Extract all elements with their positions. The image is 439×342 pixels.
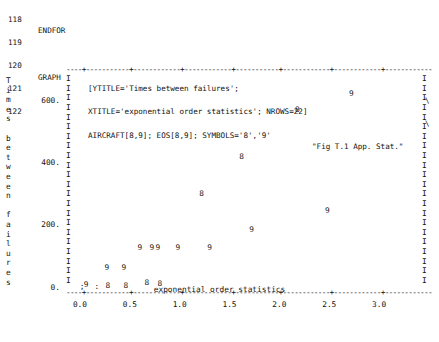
y-axis-title-char: i bbox=[6, 230, 11, 239]
x-axis-tick-label: 3.0 bbox=[364, 300, 394, 309]
y-axis-title-char: n bbox=[6, 191, 11, 200]
data-point-8: 8 bbox=[295, 105, 300, 114]
code-listing: 118 ENDFOR 119 120 GRAPH [YTITLE='Times … bbox=[0, 0, 439, 58]
y-axis-tick-label: 600. bbox=[26, 96, 60, 105]
y-axis-title-char: e bbox=[6, 105, 11, 114]
y-axis-tick-label: 400. bbox=[26, 158, 60, 167]
y-axis-tick-label: 200. bbox=[26, 220, 60, 229]
plot-left-border-char: I bbox=[66, 113, 71, 122]
plot-right-border-char: I bbox=[422, 93, 427, 102]
y-axis-title-char: e bbox=[6, 182, 11, 191]
data-point-9: 9 bbox=[122, 263, 127, 272]
plot-left-border-char: I bbox=[66, 247, 71, 256]
plot-left-border-char: I bbox=[66, 132, 71, 141]
plot-right-border-char: I bbox=[422, 247, 427, 256]
x-axis-tick-label: 2.5 bbox=[314, 300, 344, 309]
plot-right-border-char: I bbox=[422, 180, 427, 189]
x-axis-tick-label: 1.0 bbox=[165, 300, 195, 309]
plot-top-border-line: ----+-----------+------------+----------… bbox=[66, 65, 432, 74]
code-line: 120 GRAPH [YTITLE='Times between failure… bbox=[0, 48, 439, 60]
screenshot-root: 118 ENDFOR 119 120 GRAPH [YTITLE='Times … bbox=[0, 0, 439, 342]
y-axis-title-char: e bbox=[6, 143, 11, 152]
plot-left-border-char: I bbox=[66, 266, 71, 275]
x-axis-tick-label: 0.0 bbox=[65, 300, 95, 309]
plot-right-border-char: I bbox=[422, 151, 427, 160]
plot-left-border-char: I bbox=[66, 218, 71, 227]
plot-right-border-char: I bbox=[422, 266, 427, 275]
code-line: 118 ENDFOR bbox=[0, 2, 439, 14]
ascii-scatter-plot: Timesbetweenfailures 600.400.200.0. ----… bbox=[0, 60, 439, 342]
plot-right-border-char: I bbox=[422, 209, 427, 218]
y-axis-title-char: u bbox=[6, 249, 11, 258]
plot-right-border-char: I bbox=[422, 257, 427, 266]
y-axis-title-char: i bbox=[6, 86, 11, 95]
x-axis-tick-label: 2.0 bbox=[264, 300, 294, 309]
data-point-9: 9 bbox=[249, 225, 254, 234]
y-axis-title-char: m bbox=[6, 95, 11, 104]
plot-left-border-char: I bbox=[66, 170, 71, 179]
plot-left-border-char: I bbox=[66, 189, 71, 198]
x-axis-title: exponential order statistics bbox=[0, 285, 439, 294]
plot-left-border-char: I bbox=[66, 141, 71, 150]
y-axis-title-char: t bbox=[6, 153, 11, 162]
data-point-9: 9 bbox=[149, 243, 154, 252]
code-line-number: 118 bbox=[8, 14, 34, 26]
plot-left-border-char: I bbox=[66, 122, 71, 131]
plot-left-border-char: I bbox=[66, 93, 71, 102]
y-axis-title-char: l bbox=[6, 239, 11, 248]
plot-right-border-char: I bbox=[422, 218, 427, 227]
plot-right-border-char: I bbox=[422, 122, 427, 131]
data-point-9: 9 bbox=[155, 243, 160, 252]
plot-right-border-char: I bbox=[422, 228, 427, 237]
y-axis-title-char: f bbox=[6, 210, 11, 219]
plot-left-border-char: I bbox=[66, 228, 71, 237]
plot-right-border-char: I bbox=[422, 189, 427, 198]
plot-right-border-char: I bbox=[422, 141, 427, 150]
data-point-9: 9 bbox=[325, 206, 330, 215]
plot-right-border-char: I bbox=[422, 103, 427, 112]
plot-right-border-char: I bbox=[422, 170, 427, 179]
data-point-9: 9 bbox=[105, 263, 110, 272]
y-axis-title-char: b bbox=[6, 134, 11, 143]
plot-left-border-char: I bbox=[66, 276, 71, 285]
data-point-9: 9 bbox=[175, 243, 180, 252]
y-axis-title-char: T bbox=[6, 76, 11, 85]
data-point-9: 9 bbox=[207, 243, 212, 252]
plot-left-border-char: I bbox=[66, 151, 71, 160]
plot-left-border-char: I bbox=[66, 161, 71, 170]
data-point-9: 9 bbox=[137, 243, 142, 252]
y-axis-title-char: a bbox=[6, 220, 11, 229]
y-axis-title-char: e bbox=[6, 172, 11, 181]
code-line: 119 bbox=[0, 25, 439, 37]
plot-left-border-char: I bbox=[66, 209, 71, 218]
data-point-8: 8 bbox=[239, 152, 244, 161]
plot-right-border-char: I bbox=[422, 74, 427, 83]
x-axis-tick-label: 0.5 bbox=[115, 300, 145, 309]
y-axis-title-char: s bbox=[6, 114, 11, 123]
plot-right-border-char: I bbox=[422, 132, 427, 141]
plot-left-border-char: I bbox=[66, 74, 71, 83]
plot-right-border-char: I bbox=[422, 276, 427, 285]
plot-left-border-char: I bbox=[66, 180, 71, 189]
plot-left-border-char: I bbox=[66, 237, 71, 246]
y-axis-title-char: r bbox=[6, 258, 11, 267]
data-point-9: 9 bbox=[349, 89, 354, 98]
code-line-number: 119 bbox=[8, 37, 34, 49]
y-axis-title-char: w bbox=[6, 162, 11, 171]
y-axis-title-char: e bbox=[6, 268, 11, 277]
plot-left-border-char: I bbox=[66, 103, 71, 112]
x-axis-tick-label: 1.5 bbox=[215, 300, 245, 309]
plot-right-border-char: I bbox=[422, 84, 427, 93]
plot-right-border-char: I bbox=[422, 113, 427, 122]
data-point-8: 8 bbox=[199, 189, 204, 198]
plot-left-border-char: I bbox=[66, 84, 71, 93]
plot-left-border-char: I bbox=[66, 199, 71, 208]
plot-right-border-char: I bbox=[422, 199, 427, 208]
plot-left-border-char: I bbox=[66, 257, 71, 266]
plot-right-border-char: I bbox=[422, 161, 427, 170]
plot-right-border-char: I bbox=[422, 237, 427, 246]
